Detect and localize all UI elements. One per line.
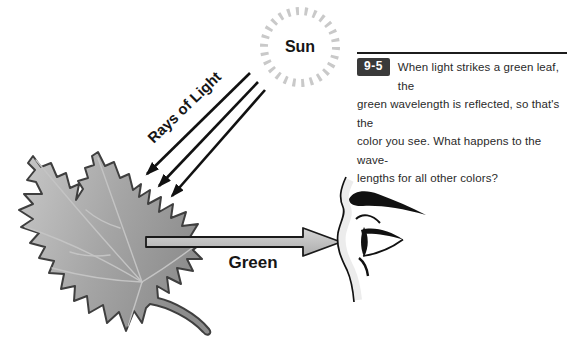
light-ray-arrow [159,82,258,186]
caption-line: lengths for all other colors? [357,169,567,188]
lower-lash [359,258,368,276]
figure-caption: 9-5 When light strikes a green leaf, the… [357,52,567,188]
caption-first-row: 9-5 When light strikes a green leaf, the [357,58,567,95]
caption-line: When light strikes a green leaf, the [398,58,567,95]
lower-eyelid [363,240,403,257]
figure-number-badge: 9-5 [357,58,390,76]
green-label: Green [228,253,277,272]
eyebrow [349,191,426,215]
caption-line: green wavelength is reflected, so that's… [357,95,567,132]
sun-label: Sun [285,38,315,55]
rays-of-light-label: Rays of Light [144,68,224,146]
caption-line: color you see. What happens to the wave- [357,132,567,169]
eye-icon [338,177,426,302]
sun: Sun [264,11,336,83]
eyelid-crease [356,215,380,223]
figure-canvas: Sun Rays of Light Gre [0,0,567,359]
